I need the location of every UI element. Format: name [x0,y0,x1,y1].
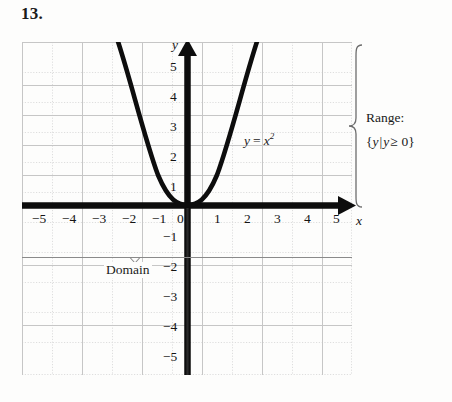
y-tick--5: −5 [163,350,177,364]
x-tick--4: −4 [62,212,76,226]
y-tick-5: 5 [170,60,177,74]
range-set-notation: {y|y≥0} [366,134,415,150]
x-tick--5: −5 [32,212,46,226]
range-brace [349,45,362,207]
x-tick-1: 1 [214,212,221,226]
y-tick-3: 3 [170,120,177,134]
equation-operator: = [250,133,264,148]
x-tick-2: 2 [244,212,251,226]
x-tick-3: 3 [274,212,281,226]
x-tick--2: −2 [122,212,136,226]
equation-rhs-exponent: 2 [270,131,275,141]
domain-label: Domain [104,262,152,278]
coordinate-graph: −5 −4 −3 −2 −1 0 1 2 3 4 5 x 5 4 3 2 1 y… [22,42,352,375]
x-axis-letter: x [356,213,362,229]
x-tick-0: 0 [177,212,184,226]
y-tick-1: 1 [170,180,177,194]
x-tick-5: 5 [333,212,340,226]
worksheet-figure: 13. [0,0,452,402]
range-title-label: Range: [366,110,404,126]
problem-number: 13. [21,4,43,24]
y-tick--4: −4 [163,320,177,334]
x-tick--3: −3 [92,212,106,226]
x-tick--1: −1 [152,212,166,226]
y-tick-4: 4 [170,90,177,104]
y-tick--1: −1 [163,230,177,244]
y-tick--2: −2 [163,260,177,274]
range-value: 0 [398,134,409,149]
y-tick--3: −3 [163,290,177,304]
equation-label: y=x2 [244,131,274,149]
y-tick-2: 2 [170,150,177,164]
range-ge-sign: ≥ [389,134,397,149]
range-brace-close: } [408,134,414,149]
x-tick-4: 4 [304,212,311,226]
y-axis-letter: y [172,37,178,53]
